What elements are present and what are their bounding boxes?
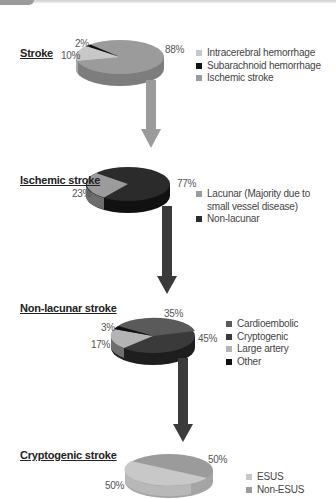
pct-large-artery: 17%	[91, 339, 110, 350]
pct-ischemic: 88%	[165, 44, 184, 55]
pie-non-lacunar-stroke	[111, 318, 195, 365]
chart-title-cryptogenic-stroke: Cryptogenic stroke	[20, 449, 117, 461]
arrow-down-3	[173, 358, 193, 442]
pct-lacunar: 23%	[72, 188, 91, 199]
pie-stroke	[76, 40, 164, 86]
pct-cryptogenic: 45%	[198, 333, 217, 344]
pie-cryptogenic-stroke	[124, 454, 213, 498]
pct-esus: 50%	[105, 480, 124, 491]
chart-title-stroke: Stroke	[20, 47, 53, 59]
legend-swatch	[226, 321, 232, 327]
legend-item: Cryptogenic	[226, 331, 298, 344]
legend-swatch	[246, 474, 252, 480]
legend-item: Large artery	[226, 343, 298, 356]
pct-cardioembolic: 35%	[164, 308, 183, 319]
legend-swatch	[196, 191, 202, 197]
arrow-down-1	[141, 80, 161, 148]
legend-item: Subarachnoid hemorrhage	[196, 60, 321, 73]
legend-item: Non-ESUS	[246, 484, 304, 497]
legend-item: Other	[226, 356, 298, 369]
legend-stroke: Intracerebral hemorrhage Subarachnoid he…	[196, 47, 321, 85]
legend-swatch	[196, 50, 202, 56]
legend-swatch	[226, 346, 232, 352]
pct-ich: 10%	[61, 50, 80, 61]
legend-non-lacunar-stroke: Cardioembolic Cryptogenic Large artery O…	[226, 318, 298, 368]
legend-cryptogenic-stroke: ESUS Non-ESUS	[246, 471, 304, 496]
legend-item: Non-lacunar	[196, 213, 334, 226]
legend-swatch	[196, 216, 202, 222]
legend-item: Lacunar (Majority due to small vessel di…	[196, 188, 334, 213]
legend-item: Intracerebral hemorrhage	[196, 47, 321, 60]
arrow-down-2	[157, 206, 177, 294]
legend-swatch	[226, 359, 232, 365]
pct-other: 3%	[101, 322, 115, 333]
pct-sah: 2%	[75, 38, 89, 49]
pct-non-esus: 50%	[208, 454, 227, 465]
legend-swatch	[246, 487, 252, 493]
legend-swatch	[196, 63, 202, 69]
legend-item: Ischemic stroke	[196, 72, 321, 85]
legend-swatch	[226, 334, 232, 340]
chart-title-non-lacunar-stroke: Non-lacunar stroke	[20, 302, 117, 314]
chart-title-ischemic-stroke: Ischemic stroke	[20, 174, 100, 186]
legend-ischemic-stroke: Lacunar (Majority due to small vessel di…	[196, 188, 334, 226]
legend-item: ESUS	[246, 471, 304, 484]
legend-swatch	[196, 75, 202, 81]
legend-item: Cardioembolic	[226, 318, 298, 331]
pct-non-lacunar: 77%	[177, 178, 196, 189]
